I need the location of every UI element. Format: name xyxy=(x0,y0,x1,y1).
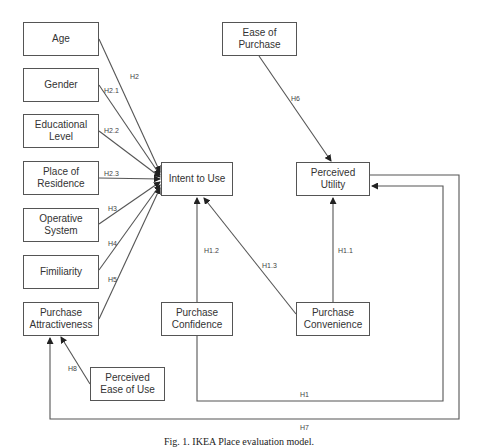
edge-h1 xyxy=(197,186,443,401)
node-educational-level: Educational Level xyxy=(23,114,99,148)
node-age: Age xyxy=(23,22,99,56)
edge-h8 xyxy=(61,337,90,384)
edge-label-h2-3: H2.3 xyxy=(104,170,119,178)
node-label: Intent to Use xyxy=(169,173,226,186)
edge-label-h1: H1 xyxy=(300,391,309,399)
edge-label-h1-3: H1.3 xyxy=(262,262,277,270)
node-label: Purchase Attractiveness xyxy=(26,307,96,332)
edge-label-h4: H4 xyxy=(108,240,117,248)
edge-h3 xyxy=(99,182,160,224)
edge-h2 xyxy=(99,39,160,172)
edge-label-h6: H6 xyxy=(291,95,300,103)
edge-h6 xyxy=(259,56,331,161)
edge-label-h2-1: H2.1 xyxy=(104,87,119,95)
node-operative-system: Operative System xyxy=(23,208,99,242)
edge-label-h3: H3 xyxy=(108,205,117,213)
node-purchase-attractiveness: Purchase Attractiveness xyxy=(23,302,99,336)
node-label: Perceived Ease of Use xyxy=(93,372,162,397)
edge-label-h5: H5 xyxy=(108,276,117,284)
edge-h1-3 xyxy=(204,198,296,314)
node-label: Perceived Utility xyxy=(299,167,367,192)
node-perceived-ease-of-use: Perceived Ease of Use xyxy=(90,367,165,401)
node-gender: Gender xyxy=(23,68,99,102)
evaluation-model-diagram: Age Gender Educational Level Place of Re… xyxy=(0,0,478,448)
node-label: Fimiliarity xyxy=(40,266,82,279)
figure-caption: Fig. 1. IKEA Place evaluation model. xyxy=(0,436,478,447)
node-place-of-residence: Place of Residence xyxy=(23,161,99,195)
node-label: Operative System xyxy=(26,213,96,238)
node-label: Age xyxy=(52,33,70,46)
node-perceived-utility: Perceived Utility xyxy=(296,162,370,196)
node-intent-to-use: Intent to Use xyxy=(161,162,233,196)
edge-label-h2: H2 xyxy=(130,73,139,81)
node-label: Place of Residence xyxy=(26,166,96,191)
node-label: Purchase Confidence xyxy=(164,307,230,332)
node-label: Educational Level xyxy=(26,119,96,144)
edge-label-h1-2: H1.2 xyxy=(204,247,219,255)
node-ease-of-purchase: Ease of Purchase xyxy=(222,22,297,56)
node-label: Ease of Purchase xyxy=(225,27,294,52)
node-purchase-confidence: Purchase Confidence xyxy=(161,302,233,336)
node-purchase-convenience: Purchase Convenience xyxy=(296,302,370,336)
edge-label-h8: H8 xyxy=(68,365,77,373)
edge-label-h7: H7 xyxy=(300,424,309,432)
edge-label-h1-1: H1.1 xyxy=(338,247,353,255)
node-label: Purchase Convenience xyxy=(299,307,367,332)
edge-label-h2-2: H2.2 xyxy=(104,127,119,135)
node-familiarity: Fimiliarity xyxy=(23,255,99,289)
node-label: Gender xyxy=(44,79,77,92)
edge-h2-3 xyxy=(99,178,160,179)
edge-h4 xyxy=(99,185,160,270)
